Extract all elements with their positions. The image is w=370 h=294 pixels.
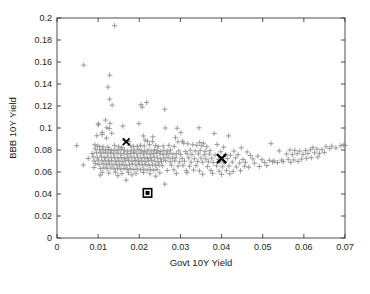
- y-tick-label: 0.16: [34, 57, 52, 67]
- y-tick-label: 0.04: [34, 189, 52, 199]
- y-tick-label: 0.14: [34, 79, 52, 89]
- x-tick-label: 0.05: [254, 242, 272, 252]
- x-axis-title: Govt 10Y Yield: [170, 257, 233, 268]
- y-tick-label: 0.08: [34, 145, 52, 155]
- x-tick-label: 0.02: [131, 242, 149, 252]
- scatter-plot-figure: 00.010.020.030.040.050.060.07 00.020.040…: [0, 0, 370, 294]
- x-tick-label: 0: [54, 242, 59, 252]
- y-tick-label: 0.12: [34, 101, 52, 111]
- series-reference-square: [143, 189, 151, 197]
- y-tick-label: 0: [47, 233, 52, 243]
- x-tick-label: 0.03: [172, 242, 190, 252]
- x-tick-label: 0.01: [89, 242, 107, 252]
- y-tick-label: 0.2: [39, 13, 52, 23]
- y-tick-label: 0.1: [39, 123, 52, 133]
- y-axis-title: BBB 10Y Yield: [7, 97, 18, 159]
- plot-canvas: 00.010.020.030.040.050.060.07 00.020.040…: [0, 0, 370, 294]
- y-tick-label: 0.18: [34, 35, 52, 45]
- x-tick-label: 0.04: [213, 242, 231, 252]
- x-tick-label: 0.07: [336, 242, 354, 252]
- y-tick-label: 0.06: [34, 167, 52, 177]
- x-tick-label: 0.06: [295, 242, 313, 252]
- y-tick-label: 0.02: [34, 211, 52, 221]
